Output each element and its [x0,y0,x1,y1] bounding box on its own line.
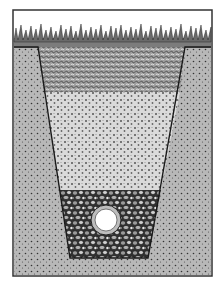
drain-pipe [91,205,121,235]
drain-cross-section-illustration [0,0,224,287]
fine-gravel-layer [44,92,180,190]
coarse-fill-layer [38,47,185,92]
